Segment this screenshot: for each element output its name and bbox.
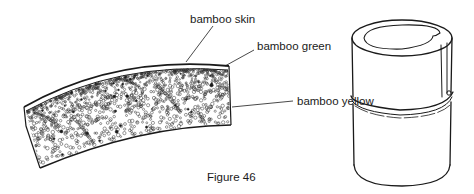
leader-skin [186, 26, 213, 62]
bamboo-strip [24, 64, 232, 168]
figure-caption: Figure 46 [207, 172, 256, 184]
strip-right-edge [229, 66, 231, 125]
figure-drawing [0, 0, 474, 194]
fiber-stipple [24, 68, 232, 168]
leader-green [225, 50, 254, 66]
label-bamboo-yellow: bamboo yellow [297, 96, 374, 108]
leader-yellow [232, 101, 293, 107]
label-bamboo-skin: bamboo skin [190, 14, 255, 26]
strip-bottom-edge [40, 125, 231, 168]
label-bamboo-green: bamboo green [257, 41, 331, 53]
